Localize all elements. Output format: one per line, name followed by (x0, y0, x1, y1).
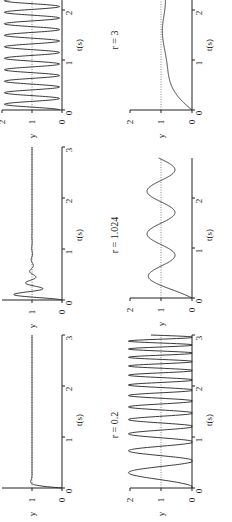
subplot-top-left: 012012t(s)y (0, 0, 84, 138)
t-tick-label: 1 (64, 250, 74, 255)
y-tick-label: 0 (187, 497, 197, 502)
y-tick-label: 0 (57, 497, 67, 502)
t-tick-label: 1 (194, 61, 204, 66)
response-curve (147, 158, 192, 298)
t-tick-label: 2 (64, 387, 74, 392)
t-tick-label: 1 (194, 249, 204, 254)
t-tick-label: 2 (194, 199, 204, 204)
t-tick-label: 0 (64, 110, 74, 115)
panels: 012012t(s)y012301t(s)y012301t(s)y012012t… (0, 0, 214, 516)
y-axis-label: y (156, 321, 166, 326)
y-axis-label: y (156, 133, 166, 138)
t-tick-label: 0 (194, 488, 204, 493)
t-tick-label: 2 (64, 199, 74, 204)
y-tick-label: 1 (27, 120, 37, 125)
t-tick-label: 0 (64, 300, 74, 305)
t-tick-label: 1 (64, 438, 74, 443)
y-tick-label: 0 (187, 119, 197, 124)
y-tick-label: 0 (187, 307, 197, 312)
t-tick-label: 0 (194, 110, 204, 115)
response-curve (14, 147, 62, 300)
subplot-bottom-left: 012301t(s)y (2, 335, 84, 516)
subplot-title: r = 3 (109, 31, 120, 50)
y-axis-label: y (27, 133, 37, 138)
t-tick-label: 0 (194, 298, 204, 303)
t-tick-label: 2 (64, 11, 74, 16)
x-axis-label: t(s) (204, 414, 214, 426)
y-tick-label: 1 (27, 310, 37, 315)
subplot-bottom-right: 0123012t(s)yr = 0.2 (109, 335, 214, 516)
t-tick-label: 3 (64, 147, 74, 152)
y-tick-label: 2 (125, 120, 135, 125)
subplot-top-right: 012012t(s)yr = 3 (109, 0, 214, 138)
y-tick-label: 2 (125, 308, 135, 313)
t-tick-label: 1 (194, 438, 204, 443)
t-tick-label: 3 (194, 335, 204, 340)
subplot-title: r = 1.024 (109, 217, 120, 253)
y-tick-label: 0 (57, 119, 67, 124)
subplot-middle-left: 012301t(s)y (2, 147, 84, 328)
y-tick-label: 1 (156, 498, 166, 503)
t-tick-label: 2 (194, 11, 204, 16)
y-tick-label: 1 (156, 120, 166, 125)
response-curve (31, 335, 62, 488)
y-tick-label: 2 (125, 498, 135, 503)
figure: 012012t(s)y012301t(s)y012301t(s)y012012t… (0, 0, 232, 522)
t-tick-label: 1 (64, 61, 74, 66)
t-tick-label: 3 (64, 335, 74, 340)
y-axis-label: y (27, 323, 37, 328)
x-axis-label: t(s) (204, 229, 214, 241)
t-tick-label: 0 (64, 488, 74, 493)
y-axis-label: y (156, 511, 166, 516)
x-axis-label: t(s) (74, 39, 84, 51)
response-curve (162, 0, 192, 110)
y-tick-label: 2 (0, 120, 7, 125)
y-axis-label: y (27, 511, 37, 516)
response-curve (128, 335, 192, 488)
y-tick-label: 1 (27, 498, 37, 503)
subplot-title: r = 0.2 (109, 412, 120, 438)
y-tick-label: 1 (156, 308, 166, 313)
x-axis-label: t(s) (74, 229, 84, 241)
t-tick-label: 2 (194, 387, 204, 392)
x-axis-label: t(s) (204, 39, 214, 51)
x-axis-label: t(s) (74, 414, 84, 426)
y-tick-label: 0 (57, 309, 67, 314)
subplot-middle-right: 012012t(s)yr = 1.024 (109, 158, 214, 326)
